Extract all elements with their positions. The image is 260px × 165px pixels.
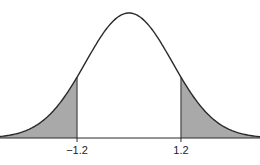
density-curve — [0, 13, 260, 137]
tick-label-left: −1.2 — [66, 144, 88, 156]
normal-distribution-chart: −1.2 1.2 — [0, 0, 260, 165]
tick-label-right: 1.2 — [173, 144, 188, 156]
right-tail-shaded-region — [181, 77, 260, 138]
left-tail-shaded-region — [0, 77, 77, 138]
